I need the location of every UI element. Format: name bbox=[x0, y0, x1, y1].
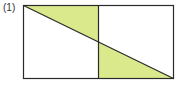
diagram-rectangle-split bbox=[0, 0, 176, 97]
